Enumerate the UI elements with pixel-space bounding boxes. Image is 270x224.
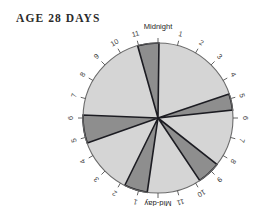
hour-label-2: 2 xyxy=(198,38,206,48)
hour-tick-7 xyxy=(230,137,235,138)
hour-tick-5 xyxy=(230,97,235,98)
hour-label-13: 1 xyxy=(132,197,138,207)
hour-tick-9 xyxy=(211,171,215,175)
midday-label: Mid-day xyxy=(144,199,171,208)
hour-label-17: 5 xyxy=(69,137,79,143)
hour-label-15: 3 xyxy=(92,175,101,184)
clock-diagram: 12345678910111234567891011 Midnight Mid-… xyxy=(0,0,270,224)
hour-label-11: 11 xyxy=(176,197,186,208)
hour-tick-10 xyxy=(196,183,199,187)
hour-label-20: 8 xyxy=(78,70,88,78)
hour-label-19: 7 xyxy=(69,92,79,98)
hour-label-10: 10 xyxy=(196,188,207,200)
clock-chart-figure: AGE 28 DAYS 12345678910111234567891011 M… xyxy=(0,0,270,224)
hour-label-6: 6 xyxy=(241,116,250,120)
hour-tick-11 xyxy=(177,190,178,195)
hour-label-14: 2 xyxy=(110,189,118,199)
hour-label-16: 4 xyxy=(78,158,88,166)
hour-label-18: 6 xyxy=(66,116,75,120)
hour-tick-4 xyxy=(223,78,227,81)
hour-label-23: 11 xyxy=(131,29,141,40)
hour-tick-17 xyxy=(81,137,86,138)
midnight-label: Midnight xyxy=(144,22,174,31)
hour-tick-3 xyxy=(211,61,215,65)
hour-tick-14 xyxy=(118,183,121,187)
hour-label-7: 7 xyxy=(237,137,247,143)
hour-label-9: 9 xyxy=(215,175,224,184)
hour-tick-20 xyxy=(89,78,93,81)
hour-tick-21 xyxy=(101,61,105,65)
hour-tick-22 xyxy=(118,49,121,53)
hour-tick-13 xyxy=(137,190,138,195)
hour-label-3: 3 xyxy=(215,52,224,61)
hour-tick-8 xyxy=(223,156,227,159)
pie-segments-group xyxy=(83,43,233,193)
hour-tick-23 xyxy=(137,41,138,46)
hour-label-8: 8 xyxy=(229,158,239,166)
hour-label-5: 5 xyxy=(237,92,247,98)
hour-label-4: 4 xyxy=(229,70,239,78)
hour-tick-16 xyxy=(89,156,93,159)
hour-tick-1 xyxy=(177,41,178,46)
hour-tick-2 xyxy=(196,49,199,53)
hour-label-22: 10 xyxy=(109,37,120,49)
hour-tick-19 xyxy=(81,97,86,98)
hour-label-1: 1 xyxy=(177,29,183,39)
hour-tick-15 xyxy=(101,171,105,175)
hour-label-21: 9 xyxy=(92,52,101,61)
